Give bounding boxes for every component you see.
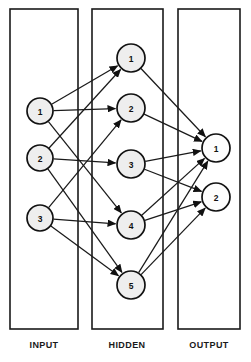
node-label-o1: 1: [214, 144, 219, 154]
node-h1[interactable]: 1: [117, 44, 145, 72]
node-label-h3: 3: [129, 160, 134, 170]
node-label-i1: 1: [38, 107, 43, 117]
node-h3[interactable]: 3: [117, 150, 145, 178]
neural-network-diagram: 1231234512 INPUTHIDDENOUTPUT: [0, 0, 251, 362]
node-o2[interactable]: 2: [202, 183, 230, 211]
node-label-o2: 2: [214, 193, 219, 203]
node-label-i3: 3: [38, 214, 43, 224]
network-canvas: 1231234512 INPUTHIDDENOUTPUT: [0, 0, 251, 362]
layer-caption-output: OUTPUT: [189, 340, 228, 350]
node-label-h5: 5: [129, 281, 134, 291]
node-h4[interactable]: 4: [117, 211, 145, 239]
node-label-h1: 1: [129, 54, 134, 64]
node-label-h2: 2: [129, 104, 134, 114]
node-i3[interactable]: 3: [27, 205, 53, 231]
node-i2[interactable]: 2: [27, 145, 53, 171]
layer-caption-hidden: HIDDEN: [109, 340, 146, 350]
node-i1[interactable]: 1: [27, 98, 53, 124]
node-label-h4: 4: [129, 221, 134, 231]
node-o1[interactable]: 1: [202, 134, 230, 162]
layer-caption-input: INPUT: [30, 340, 59, 350]
layer-captions: INPUTHIDDENOUTPUT: [30, 340, 229, 350]
node-h5[interactable]: 5: [117, 271, 145, 299]
node-h2[interactable]: 2: [117, 94, 145, 122]
layer-box-output: [178, 9, 240, 329]
node-label-i2: 2: [38, 154, 43, 164]
